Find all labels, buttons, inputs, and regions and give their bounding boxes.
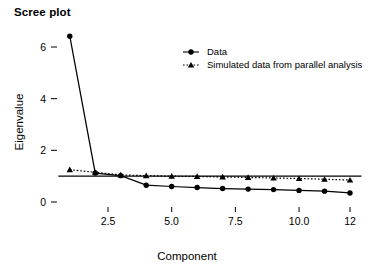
x-axis-tick-label: 2.5 <box>101 215 116 227</box>
plot-canvas <box>0 0 374 277</box>
x-axis-tick-label: 12 <box>344 215 356 227</box>
data-point-triangle <box>67 167 74 173</box>
scree-plot-figure: Scree plot Component Eigenvalue 2.55.07.… <box>0 0 374 277</box>
data-point-circle <box>169 184 174 189</box>
y-axis-tick-label: 0 <box>28 196 46 208</box>
x-axis-tick-label: 5.0 <box>164 215 179 227</box>
legend-marker-triangle <box>188 62 195 68</box>
data-point-circle <box>271 187 276 192</box>
data-point-circle <box>322 188 327 193</box>
data-point-triangle <box>347 177 354 183</box>
x-axis-tick-label: 10.0 <box>289 215 309 227</box>
data-point-circle <box>347 190 352 195</box>
series-data <box>67 33 353 195</box>
legend-marker-circle <box>188 49 193 54</box>
legend-item-label: Data <box>207 46 227 57</box>
data-point-circle <box>220 186 225 191</box>
data-point-circle <box>245 186 250 191</box>
data-point-circle <box>67 33 72 38</box>
data-point-circle <box>194 185 199 190</box>
y-axis-tick-label: 6 <box>28 41 46 53</box>
data-point-circle <box>144 183 149 188</box>
x-axis-tick-label: 7.5 <box>228 215 243 227</box>
y-axis-tick-label: 4 <box>28 93 46 105</box>
y-axis-tick-label: 2 <box>28 144 46 156</box>
legend-item-label: Simulated data from parallel analysis <box>207 59 362 70</box>
data-point-circle <box>296 188 301 193</box>
